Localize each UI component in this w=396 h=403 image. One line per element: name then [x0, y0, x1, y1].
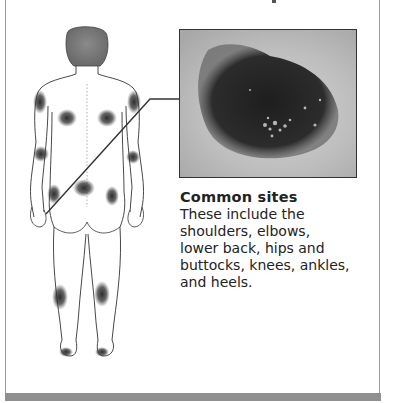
- site-right-scapula: [97, 109, 117, 127]
- site-right-shoulder: [127, 90, 141, 114]
- site-left-knee: [52, 284, 68, 310]
- caption-title: Common sites: [180, 189, 380, 206]
- caption: Common sites These include the shoulders…: [180, 189, 380, 291]
- site-right-hip: [105, 186, 119, 206]
- panel-bottom-bar: [5, 393, 381, 401]
- site-left-heel: [59, 347, 73, 357]
- body-illustration: [22, 22, 152, 367]
- site-left-hip: [47, 184, 61, 204]
- caption-body: These include the shoulders, elbows, low…: [180, 206, 380, 291]
- site-left-elbow: [33, 146, 49, 162]
- site-left-scapula: [57, 109, 77, 127]
- site-left-shoulder: [33, 90, 47, 114]
- site-lower-back: [73, 179, 95, 197]
- ulcer-photo: [179, 29, 357, 178]
- site-right-knee: [94, 281, 110, 307]
- site-right-elbow: [126, 150, 140, 164]
- top-edge-mark: [272, 0, 276, 3]
- site-right-heel: [95, 347, 109, 357]
